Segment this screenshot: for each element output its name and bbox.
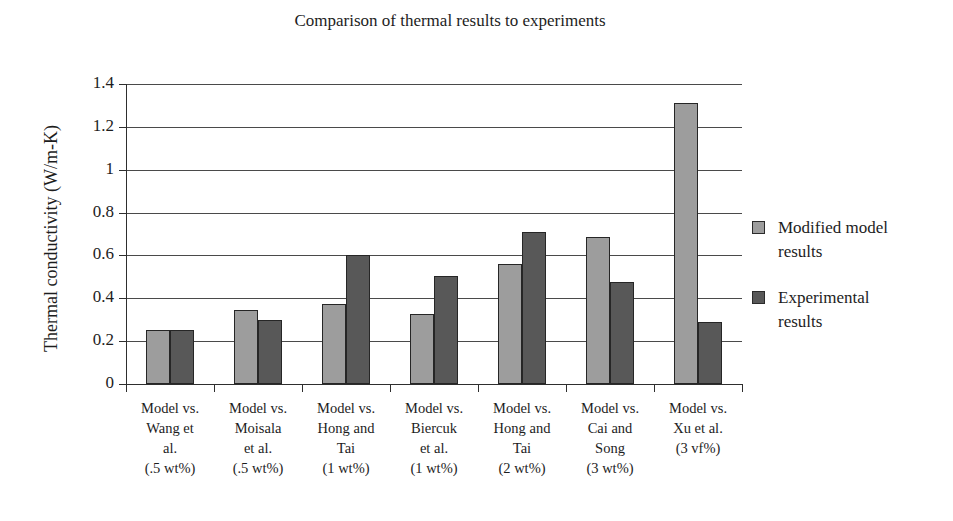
bar-1-4[interactable] [522,232,546,384]
y-tick-label: 1.2 [62,117,114,134]
x-axis-line [126,384,743,385]
category-label-line: Biercuk [390,418,478,438]
category-label-line: Hong and [302,418,390,438]
y-tick-label: 1 [62,160,114,177]
category-label-line: Hong and [478,418,566,438]
legend-label-line1: Modified model [778,216,948,240]
category-label-line: Model vs. [214,398,302,418]
category-label-line: Song [566,438,654,458]
category-label-6: Model vs.Xu et al.(3 vf%) [654,398,742,458]
category-label-line: et al. [214,438,302,458]
category-label-3: Model vs.Biercuket al.(1 wt%) [390,398,478,478]
legend-item-experimental-results[interactable]: Experimental results [752,286,948,334]
category-label-5: Model vs.Cai andSong(3 wt%) [566,398,654,478]
bar-0-4[interactable] [498,264,522,384]
category-label-line: (3 vf%) [654,438,742,458]
category-label-line: Model vs. [478,398,566,418]
y-tick-label: 0.4 [62,288,114,305]
bar-0-1[interactable] [234,310,258,384]
category-label-line: Model vs. [654,398,742,418]
plot-area [126,84,742,384]
category-label-2: Model vs.Hong andTai(1 wt%) [302,398,390,478]
legend-label-line1: Experimental [778,286,948,310]
category-label-line: Cai and [566,418,654,438]
category-label-line: Model vs. [390,398,478,418]
category-label-line: Wang et [126,418,214,438]
legend-swatch-experimental-results [752,291,765,304]
category-label-line: (1 wt%) [390,458,478,478]
y-tick-label: 0.2 [62,331,114,348]
category-label-line: Model vs. [126,398,214,418]
chart-legend: Modified model results Experimental resu… [752,216,948,356]
legend-label-line2: results [778,310,948,334]
bar-0-6[interactable] [674,103,698,384]
category-label-line: (.5 wt%) [126,458,214,478]
category-label-line: (.5 wt%) [214,458,302,478]
category-label-0: Model vs.Wang etal.(.5 wt%) [126,398,214,478]
bar-0-3[interactable] [410,314,434,384]
category-label-line: Moisala [214,418,302,438]
category-label-4: Model vs.Hong andTai(2 wt%) [478,398,566,478]
legend-swatch-modified-model-results [752,221,765,234]
category-label-line: (2 wt%) [478,458,566,478]
x-tick-mark [654,384,655,392]
legend-label-line2: results [778,240,948,264]
category-label-line: Model vs. [302,398,390,418]
y-tick-label: 0.8 [62,203,114,220]
category-label-line: Xu et al. [654,418,742,438]
bar-0-0[interactable] [146,330,170,384]
chart-title: Comparison of thermal results to experim… [240,8,660,34]
x-tick-mark [390,384,391,392]
category-label-line: Tai [302,438,390,458]
y-tick-label: 0 [62,374,114,391]
bar-1-6[interactable] [698,322,722,384]
x-tick-mark [566,384,567,392]
bar-chart-figure: Comparison of thermal results to experim… [0,0,953,521]
x-tick-mark [302,384,303,392]
bar-1-1[interactable] [258,320,282,384]
x-tick-mark [478,384,479,392]
category-label-line: et al. [390,438,478,458]
bar-1-0[interactable] [170,330,194,384]
y-tick-label: 0.6 [62,245,114,262]
x-tick-mark [742,384,743,392]
bar-0-5[interactable] [586,237,610,384]
y-axis-title: Thermal conductivity (W/m-K) [41,74,62,404]
bar-0-2[interactable] [322,304,346,384]
bar-1-2[interactable] [346,255,370,384]
category-label-line: (3 wt%) [566,458,654,478]
category-label-line: Model vs. [566,398,654,418]
legend-item-modified-model-results[interactable]: Modified model results [752,216,948,264]
x-tick-mark [126,384,127,392]
bar-1-5[interactable] [610,282,634,384]
category-label-line: Tai [478,438,566,458]
x-tick-mark [214,384,215,392]
category-label-line: (1 wt%) [302,458,390,478]
y-tick-label: 1.4 [62,74,114,91]
bar-1-3[interactable] [434,276,458,384]
category-label-line: al. [126,438,214,458]
category-label-1: Model vs.Moisalaet al.(.5 wt%) [214,398,302,478]
